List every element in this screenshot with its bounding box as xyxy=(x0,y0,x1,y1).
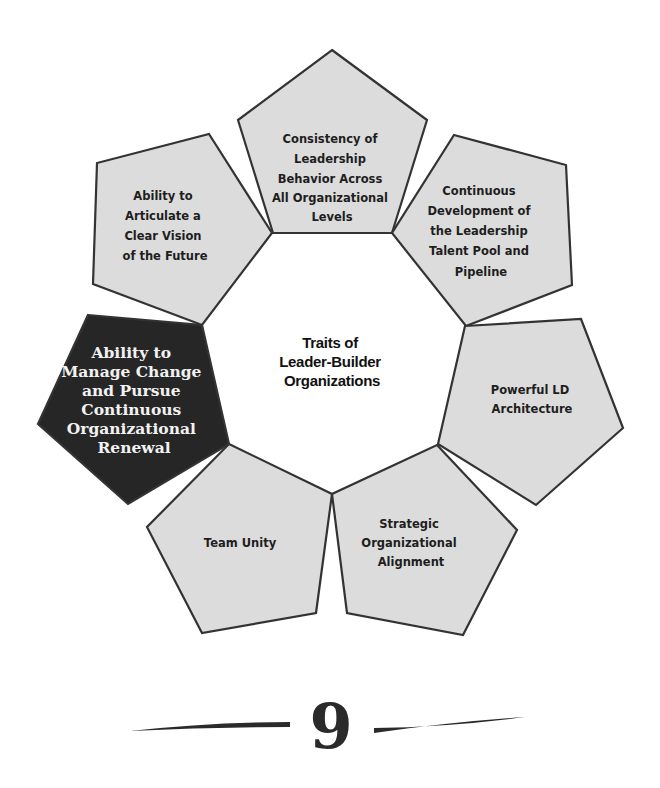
page-number: 9 xyxy=(309,690,352,763)
trait-label: Team Unity xyxy=(204,536,277,550)
leader-builder-traits-diagram: Consistency of Leadership Behavior Acros… xyxy=(0,0,660,788)
right-swash-ornament xyxy=(374,717,525,733)
trait-consistency: Consistency of Leadership Behavior Acros… xyxy=(238,50,427,233)
left-swash-ornament xyxy=(130,722,290,731)
page-footer: 9 xyxy=(130,690,525,763)
trait-clear-vision: Ability to Articulate a Clear Vision of … xyxy=(93,134,272,325)
diagram-title: Traits of Leader-Builder Organizations xyxy=(279,334,385,389)
trait-talent-pool: Continuous Development of the Leadership… xyxy=(392,135,572,326)
